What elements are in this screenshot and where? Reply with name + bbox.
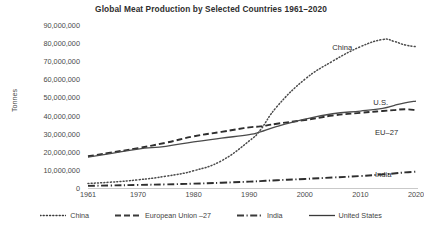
y-axis-tick-label: 20,000,000: [43, 147, 80, 156]
series-label: India: [375, 170, 391, 179]
chart-legend: ChinaEuropean Union –27IndiaUnited State…: [0, 208, 422, 222]
x-axis-tick-label: 1970: [130, 190, 146, 199]
x-axis-line: [88, 188, 418, 189]
series-line: [88, 101, 416, 157]
y-axis-tick-label: 80,000,000: [43, 39, 80, 48]
y-axis-tick-label: 10,000,000: [43, 165, 80, 174]
x-axis-tick-label: 1980: [186, 190, 202, 199]
x-axis-tick-label: 2020: [408, 190, 424, 199]
legend-label: United States: [339, 211, 382, 220]
legend-item[interactable]: United States: [309, 211, 382, 220]
legend-label: China: [70, 211, 89, 220]
series-line: [88, 172, 416, 186]
legend-item[interactable]: India: [237, 211, 283, 220]
series-label: U.S.: [373, 98, 388, 107]
legend-item[interactable]: European Union –27: [115, 211, 211, 220]
y-axis-tick-label: 90,000,000: [43, 21, 80, 30]
plot-area: ChinaU.S.EU–27India: [88, 25, 416, 188]
legend-swatch-dotted-icon: [40, 212, 66, 219]
legend-label: European Union –27: [145, 211, 211, 220]
x-axis-tick-labels: 1961197019801990200020102020: [0, 190, 422, 204]
series-label: EU–27: [375, 128, 398, 137]
legend-label: India: [267, 211, 283, 220]
legend-swatch-dashdot-icon: [237, 212, 263, 219]
legend-swatch-dashed-icon: [115, 212, 141, 219]
x-axis-tick-label: 1990: [241, 190, 257, 199]
y-axis-tick-label: 70,000,000: [43, 57, 80, 66]
y-axis-tick-label: 50,000,000: [43, 93, 80, 102]
series-label: China: [332, 43, 352, 52]
x-axis-tick-label: 1961: [80, 190, 96, 199]
x-axis-tick-label: 2010: [352, 190, 368, 199]
series-line: [88, 39, 416, 183]
legend-swatch-solid-icon: [309, 212, 335, 219]
x-axis-tick-label: 2000: [297, 190, 313, 199]
y-axis-tick-label: 30,000,000: [43, 129, 80, 138]
legend-item[interactable]: China: [40, 211, 89, 220]
y-axis-tick-label: 40,000,000: [43, 111, 80, 120]
y-axis-tick-label: 60,000,000: [43, 75, 80, 84]
series-lines: [88, 25, 416, 188]
